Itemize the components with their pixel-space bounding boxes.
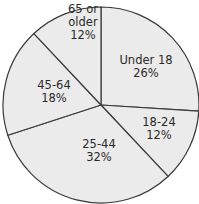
pie-slices <box>3 7 199 203</box>
slice-label: 65 orolder12% <box>68 2 98 42</box>
pie-chart: Under 1826%18-2412%25-4432%45-6418%65 or… <box>0 0 199 204</box>
slice-label: 45-6418% <box>37 78 70 105</box>
slice-label: 25-4432% <box>82 137 115 164</box>
slice-label: 18-2412% <box>142 115 175 142</box>
